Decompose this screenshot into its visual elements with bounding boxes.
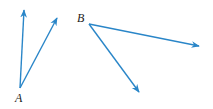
angle-a: A: [14, 10, 57, 105]
ray-b-1: [89, 24, 199, 46]
ray-a-2: [20, 18, 57, 88]
angles-diagram: A B: [0, 0, 213, 109]
ray-a-1: [20, 10, 24, 88]
vertex-label-a: A: [14, 91, 23, 105]
angle-b: B: [77, 11, 199, 92]
ray-b-2: [89, 24, 139, 92]
vertex-label-b: B: [77, 11, 85, 25]
